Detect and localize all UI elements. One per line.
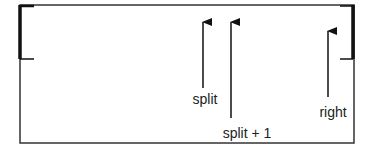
- partition-diagram: split split + 1 right: [0, 0, 373, 151]
- left-bracket: [20, 5, 34, 59]
- split-label: split: [193, 91, 218, 107]
- array-box: [20, 5, 354, 143]
- right-bracket: [340, 5, 353, 59]
- split-pointer: split: [193, 22, 218, 107]
- split-plus-1-label: split + 1: [223, 125, 272, 141]
- split-plus-1-pointer: split + 1: [223, 22, 272, 141]
- right-label: right: [319, 104, 346, 120]
- right-pointer: right: [319, 31, 346, 120]
